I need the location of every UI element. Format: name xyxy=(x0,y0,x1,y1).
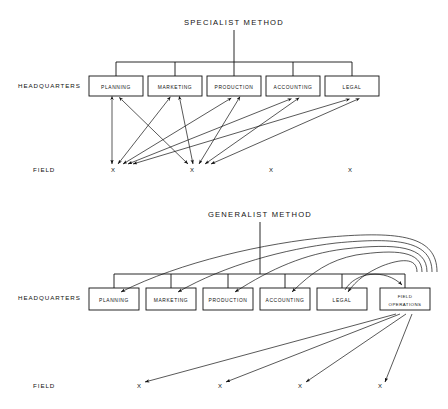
gen-dept-box-planning[interactable]: PLANNING xyxy=(89,288,139,310)
gen-dept-box-field-operations[interactable]: FIELD OPERATIONS xyxy=(380,288,430,310)
organization-method-diagram: SPECIALIST METHOD HEADQUARTERS FIELD PLA… xyxy=(0,0,448,409)
gen-field-node-1: X xyxy=(137,383,141,389)
gen-dept-box-marketing[interactable]: MARKETING xyxy=(146,288,196,310)
gen-dept-box-production[interactable]: PRODUCTION xyxy=(203,288,253,310)
generalist-title: GENERALIST METHOD xyxy=(208,210,312,219)
gen-field-node-3: X xyxy=(298,383,302,389)
gen-dept-box-field-operations-label-line2: OPERATIONS xyxy=(389,302,422,307)
gen-dept-box-planning-label: PLANNING xyxy=(99,298,129,303)
gen-dept-box-accounting[interactable]: ACCOUNTING xyxy=(260,288,310,310)
field-node-4: X xyxy=(348,167,352,173)
field-node-2: X xyxy=(190,167,194,173)
dept-box-marketing-label: MARKETING xyxy=(158,85,192,90)
diagram-root: SPECIALIST METHOD HEADQUARTERS FIELD PLA… xyxy=(0,0,448,409)
dept-box-planning[interactable]: PLANNING xyxy=(89,76,143,96)
dept-box-accounting-label: ACCOUNTING xyxy=(274,85,313,90)
dept-box-production[interactable]: PRODUCTION xyxy=(207,76,261,96)
page-background xyxy=(0,0,448,409)
specialist-title: SPECIALIST METHOD xyxy=(184,18,284,27)
dept-box-legal-label: LEGAL xyxy=(343,85,362,90)
gen-field-node-4: X xyxy=(378,383,382,389)
gen-dept-box-legal[interactable]: LEGAL xyxy=(317,288,367,310)
gen-dept-box-field-operations-label-line1: FIELD xyxy=(398,294,413,299)
specialist-headquarters-label: HEADQUARTERS xyxy=(18,82,81,89)
dept-box-production-label: PRODUCTION xyxy=(215,85,254,90)
gen-dept-box-marketing-label: MARKETING xyxy=(154,298,188,303)
gen-dept-box-production-label: PRODUCTION xyxy=(209,298,248,303)
dept-box-planning-label: PLANNING xyxy=(101,85,131,90)
specialist-field-label: FIELD xyxy=(33,166,55,173)
field-node-3: X xyxy=(269,167,273,173)
generalist-field-label: FIELD xyxy=(33,382,55,389)
dept-box-marketing[interactable]: MARKETING xyxy=(148,76,202,96)
generalist-headquarters-label: HEADQUARTERS xyxy=(18,294,81,301)
field-node-1: X xyxy=(111,167,115,173)
gen-field-node-2: X xyxy=(218,383,222,389)
dept-box-accounting[interactable]: ACCOUNTING xyxy=(266,76,320,96)
dept-box-legal[interactable]: LEGAL xyxy=(325,76,379,96)
gen-dept-box-accounting-label: ACCOUNTING xyxy=(266,298,305,303)
specialist-department-boxes: PLANNING MARKETING PRODUCTION ACCOUNTING… xyxy=(89,76,379,96)
gen-dept-box-legal-label: LEGAL xyxy=(333,298,352,303)
